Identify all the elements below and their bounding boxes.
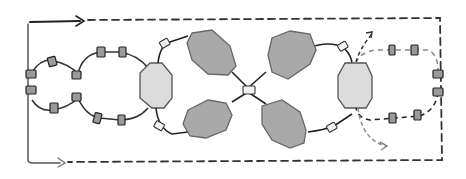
right-beads [389, 45, 443, 123]
diagram-canvas [0, 0, 466, 179]
light-octagon-left [140, 63, 172, 108]
octagon-bottom-right [262, 100, 306, 148]
octagon-top-left [187, 30, 236, 75]
octagon-top-right [268, 31, 316, 79]
light-octagon-right [338, 63, 372, 108]
left-beads [26, 47, 126, 125]
octagon-bottom-left [183, 100, 232, 138]
